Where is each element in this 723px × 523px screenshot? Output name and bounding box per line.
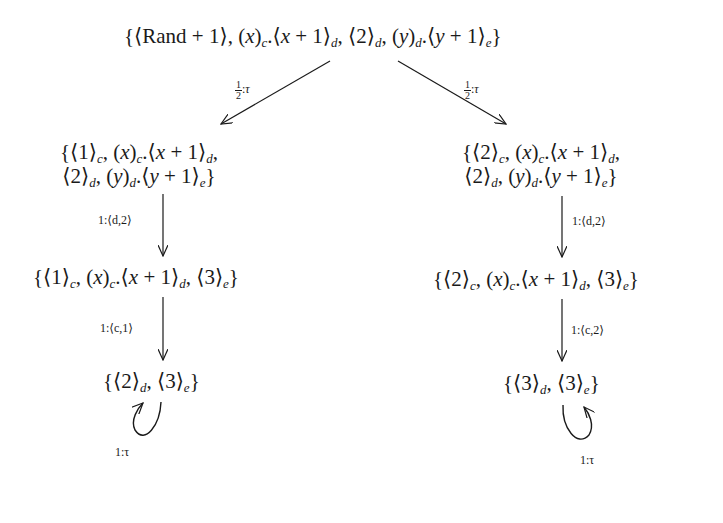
node-right1: {⟨2⟩c, (x)c.⟨x + 1⟩d,⟨2⟩d, (y)d.⟨y + 1⟩e… [462,140,620,188]
edge-label-left3-selfloop: 1:τ [115,445,129,460]
edge-label-right3-selfloop: 1:τ [580,453,594,468]
edge-label-root-right1: 12:τ [464,80,479,101]
node-left1: {⟨1⟩c, (x)c.⟨x + 1⟩d,⟨2⟩d, (y)d.⟨y + 1⟩e… [60,140,218,188]
edge-label-root-left1: 12:τ [235,80,250,101]
edge-label-right2-right3: 1:⟨c,2⟩ [571,323,604,338]
node-root: {⟨Rand + 1⟩, (x)c.⟨x + 1⟩d, ⟨2⟩d, (y)d.⟨… [124,24,502,48]
node-right3: {⟨3⟩d, ⟨3⟩e} [503,371,600,395]
edge-label-right1-right2: 1:⟨d,2⟩ [572,214,606,229]
node-left3: {⟨2⟩d, ⟨3⟩e} [103,369,200,393]
edge-left3-selfloop [133,402,161,435]
edge-right3-selfloop [563,405,592,439]
edges-layer [0,0,723,523]
node-right2: {⟨2⟩c, (x)c.⟨x + 1⟩d, ⟨3⟩e} [433,267,639,291]
edge-label-left2-left3: 1:⟨c,1⟩ [100,321,133,336]
edge-label-left1-left2: 1:⟨d,2⟩ [98,213,132,228]
node-left2: {⟨1⟩c, (x)c.⟨x + 1⟩d, ⟨3⟩e} [33,265,239,289]
edge-root-right1 [398,61,506,124]
